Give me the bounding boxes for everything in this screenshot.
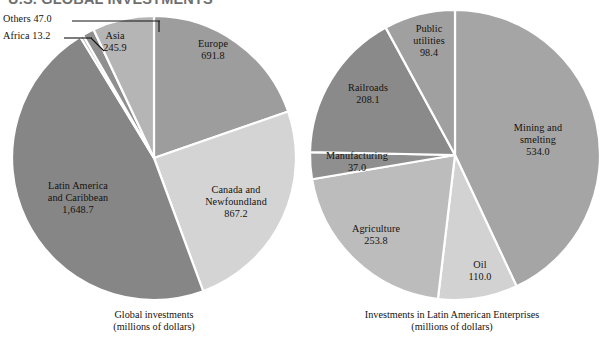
caption-right-line2: (millions of dollars) bbox=[322, 321, 582, 333]
global-investments-pie-panel: Europe 691.8Canada and Newfoundland 867.… bbox=[0, 0, 320, 338]
label-latin-america-line1: Latin America bbox=[22, 180, 134, 192]
caption-left: Global investments (millions of dollars) bbox=[64, 309, 244, 334]
label-europe-value: 691.8 bbox=[176, 50, 250, 62]
label-public-utilities-value: 98.4 bbox=[398, 47, 460, 59]
label-railroads-name: Railroads bbox=[328, 82, 408, 94]
caption-left-line2: (millions of dollars) bbox=[64, 321, 244, 333]
label-public-utilities-line1: Public bbox=[398, 23, 460, 35]
label-latin-america-line2: and Caribbean bbox=[22, 192, 134, 204]
label-asia-name: Asia bbox=[82, 30, 148, 42]
label-mining-line2: smelting bbox=[496, 134, 580, 146]
label-latin-america-value: 1,648.7 bbox=[22, 204, 134, 216]
label-others: Others 47.0 bbox=[3, 13, 52, 25]
label-canada-line2: Newfoundland bbox=[182, 196, 290, 208]
label-mining-line1: Mining and bbox=[496, 122, 580, 134]
label-manufacturing-name: Manufacturing bbox=[309, 150, 405, 162]
label-public-utilities-line2: utilities bbox=[398, 35, 460, 47]
label-canada-value: 867.2 bbox=[182, 208, 290, 220]
label-oil-value: 110.0 bbox=[452, 271, 508, 283]
label-agriculture: Agriculture 253.8 bbox=[336, 223, 416, 247]
label-agriculture-value: 253.8 bbox=[336, 235, 416, 247]
label-public-utilities: Public utilities 98.4 bbox=[398, 23, 460, 59]
caption-right: Investments in Latin American Enterprise… bbox=[322, 309, 582, 334]
label-canada: Canada and Newfoundland 867.2 bbox=[182, 184, 290, 220]
label-railroads-value: 208.1 bbox=[328, 94, 408, 106]
label-asia: Asia 245.9 bbox=[82, 30, 148, 54]
label-railroads: Railroads 208.1 bbox=[328, 82, 408, 106]
label-agriculture-name: Agriculture bbox=[336, 223, 416, 235]
caption-left-line1: Global investments bbox=[64, 309, 244, 321]
label-manufacturing: Manufacturing 37.0 bbox=[309, 150, 405, 174]
label-latin-america: Latin America and Caribbean 1,648.7 bbox=[22, 180, 134, 216]
label-europe-name: Europe bbox=[176, 38, 250, 50]
label-oil-name: Oil bbox=[452, 259, 508, 271]
latin-american-enterprises-pie-panel: Mining and smelting 534.0Oil 110.0Agricu… bbox=[300, 0, 604, 338]
label-europe: Europe 691.8 bbox=[176, 38, 250, 62]
caption-right-line1: Investments in Latin American Enterprise… bbox=[322, 309, 582, 321]
label-oil: Oil 110.0 bbox=[452, 259, 508, 283]
label-mining-value: 534.0 bbox=[496, 146, 580, 158]
label-canada-line1: Canada and bbox=[182, 184, 290, 196]
label-africa: Africa 13.2 bbox=[3, 30, 51, 42]
label-mining-smelting: Mining and smelting 534.0 bbox=[496, 122, 580, 158]
figure-canvas: U.S. GLOBAL INVESTMENTS Europe 691.8Cana… bbox=[0, 0, 604, 338]
label-asia-value: 245.9 bbox=[82, 42, 148, 54]
label-manufacturing-value: 37.0 bbox=[309, 162, 405, 174]
